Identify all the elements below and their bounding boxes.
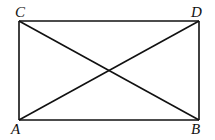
vertex-label-c: C (15, 4, 26, 20)
rectangle-diagram: C D A B (0, 0, 215, 140)
vertex-label-d: D (190, 4, 202, 20)
vertex-label-a: A (10, 121, 21, 137)
vertex-label-b: B (191, 121, 200, 137)
